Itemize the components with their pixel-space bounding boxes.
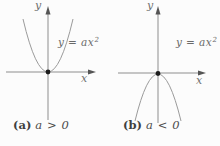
- caption-b: (b)a < 0: [123, 118, 180, 132]
- x-axis-label: x: [81, 72, 87, 85]
- curve-equation-label: y = ax2: [58, 36, 99, 48]
- panel-a: y x y = ax2 (a)a > 0: [0, 0, 110, 146]
- y-axis-label: y: [147, 0, 153, 12]
- caption-b-condition: a < 0: [146, 118, 180, 132]
- curve-equation-base: y = ax: [176, 36, 212, 48]
- curve-equation-exponent: 2: [95, 36, 100, 44]
- x-axis-arrow-icon: [88, 70, 96, 75]
- origin-dot: [46, 70, 51, 75]
- caption-a: (a)a > 0: [13, 118, 69, 132]
- caption-b-label: (b): [123, 118, 142, 132]
- origin-dot: [156, 71, 161, 76]
- panel-b: y x y = ax2 (b)a < 0: [110, 0, 220, 146]
- x-axis-label: x: [196, 74, 202, 87]
- y-axis-arrow-icon: [46, 6, 51, 15]
- curve-equation-label: y = ax2: [176, 36, 217, 48]
- curve-equation-base: y = ax: [58, 36, 94, 48]
- caption-a-condition: a > 0: [35, 118, 69, 132]
- caption-a-label: (a): [13, 118, 31, 132]
- curve-equation-exponent: 2: [213, 36, 218, 44]
- y-axis-arrow-icon: [156, 6, 161, 15]
- y-axis-label: y: [35, 0, 41, 12]
- parabola-figure: y x y = ax2 (a)a > 0 y x y = ax2 (b)a < …: [0, 0, 220, 146]
